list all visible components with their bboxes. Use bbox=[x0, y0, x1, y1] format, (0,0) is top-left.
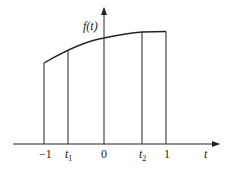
x-axis-label: t bbox=[204, 147, 208, 161]
tick-label-minus-1: −1 bbox=[39, 147, 52, 161]
tick-label-1: 1 bbox=[164, 147, 170, 161]
function-curve bbox=[44, 32, 166, 64]
tick-label-0: 0 bbox=[101, 147, 107, 161]
y-axis-label: f(t) bbox=[83, 19, 98, 33]
tick-label-t1: t1 bbox=[65, 147, 72, 163]
tick-label-t2: t2 bbox=[139, 147, 146, 163]
function-diagram: f(t) t −1 t1 0 t2 1 bbox=[0, 0, 231, 171]
